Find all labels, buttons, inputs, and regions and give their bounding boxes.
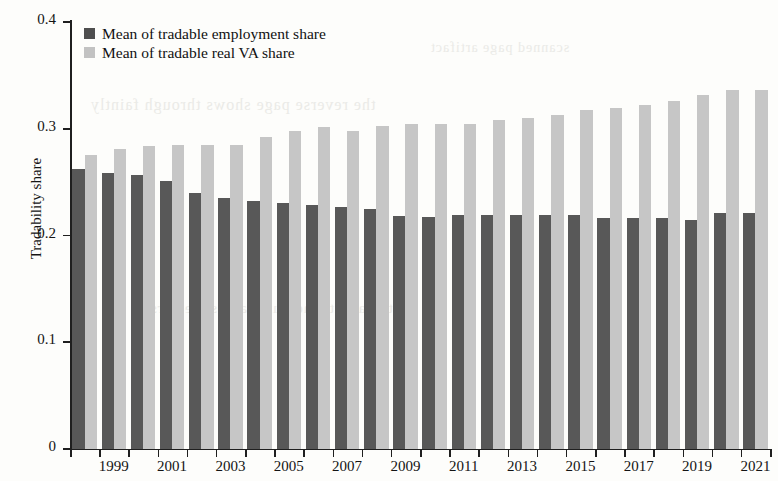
bar-real-va-share — [639, 105, 651, 449]
legend-item: Mean of tradable real VA share — [84, 43, 326, 62]
x-tick-label: 2005 — [274, 458, 304, 475]
bar-employment-share — [131, 175, 143, 449]
y-tick-label: 0.1 — [37, 331, 56, 348]
y-tick-label: 0.4 — [37, 11, 56, 28]
bar-employment-share — [510, 215, 522, 449]
legend-label: Mean of tradable employment share — [102, 24, 326, 43]
legend-item: Mean of tradable employment share — [84, 24, 326, 43]
x-tick-label: 2019 — [682, 458, 712, 475]
bar-real-va-share — [289, 131, 301, 449]
x-tick-mark — [624, 449, 626, 457]
x-tick-mark — [683, 449, 685, 457]
bar-employment-share — [568, 215, 580, 449]
bar-real-va-share — [143, 146, 155, 449]
bar-employment-share — [218, 198, 230, 449]
bar-real-va-share — [230, 145, 242, 449]
chart-legend: Mean of tradable employment shareMean of… — [84, 24, 326, 62]
legend-swatch-value_added — [84, 47, 95, 58]
bar-real-va-share — [405, 124, 417, 449]
bar-real-va-share — [464, 124, 476, 449]
bar-real-va-share — [580, 110, 592, 449]
x-tick-mark — [333, 449, 335, 457]
bar-employment-share — [539, 215, 551, 449]
x-tick-mark — [274, 449, 276, 457]
bar-real-va-share — [755, 90, 767, 449]
x-tick-mark — [653, 449, 655, 457]
bar-employment-share — [306, 205, 318, 449]
bar-real-va-share — [260, 137, 272, 449]
y-tick-label: 0.3 — [37, 118, 56, 135]
x-tick-mark — [566, 449, 568, 457]
bar-employment-share — [452, 215, 464, 449]
x-tick-mark — [770, 449, 772, 457]
bar-employment-share — [597, 218, 609, 449]
bar-employment-share — [364, 209, 376, 449]
bar-employment-share — [72, 169, 84, 449]
x-tick-label: 2001 — [157, 458, 187, 475]
bar-employment-share — [481, 215, 493, 449]
x-tick-label: 1999 — [99, 458, 129, 475]
x-tick-mark — [362, 449, 364, 457]
bar-real-va-share — [610, 108, 622, 449]
x-tick-mark — [478, 449, 480, 457]
y-tick-label: 0 — [49, 438, 57, 455]
bar-real-va-share — [201, 145, 213, 449]
x-tick-mark — [741, 449, 743, 457]
x-tick-mark — [158, 449, 160, 457]
x-tick-label: 2013 — [507, 458, 537, 475]
bar-employment-share — [102, 173, 114, 449]
bar-employment-share — [656, 218, 668, 449]
x-tick-label: 2007 — [332, 458, 362, 475]
bar-real-va-share — [668, 101, 680, 449]
bar-real-va-share — [114, 149, 126, 449]
x-tick-mark — [595, 449, 597, 457]
x-tick-mark — [70, 449, 72, 457]
bar-employment-share — [393, 216, 405, 449]
bar-real-va-share — [551, 115, 563, 449]
bar-real-va-share — [522, 118, 534, 449]
y-tick-label: 0.2 — [37, 225, 56, 242]
bar-employment-share — [743, 213, 755, 449]
x-tick-mark — [420, 449, 422, 457]
x-tick-mark — [187, 449, 189, 457]
bar-employment-share — [714, 213, 726, 449]
legend-label: Mean of tradable real VA share — [102, 43, 295, 62]
bar-employment-share — [277, 203, 289, 449]
x-tick-mark — [128, 449, 130, 457]
bar-real-va-share — [435, 124, 447, 449]
x-tick-mark — [303, 449, 305, 457]
bar-real-va-share — [172, 145, 184, 449]
x-tick-label: 2017 — [624, 458, 654, 475]
x-tick-label: 2021 — [740, 458, 770, 475]
x-tick-label: 2003 — [215, 458, 245, 475]
bar-real-va-share — [85, 155, 97, 449]
x-tick-mark — [216, 449, 218, 457]
x-tick-mark — [537, 449, 539, 457]
bar-real-va-share — [347, 131, 359, 449]
bar-employment-share — [685, 220, 697, 450]
x-tick-label: 2009 — [390, 458, 420, 475]
bar-real-va-share — [318, 127, 330, 449]
x-tick-mark — [391, 449, 393, 457]
bar-real-va-share — [376, 126, 388, 449]
x-tick-mark — [508, 449, 510, 457]
bar-real-va-share — [493, 120, 505, 449]
bar-employment-share — [247, 201, 259, 449]
plot-area — [70, 22, 770, 449]
bar-real-va-share — [726, 90, 738, 449]
bar-employment-share — [422, 217, 434, 449]
bar-employment-share — [627, 218, 639, 449]
bar-employment-share — [160, 181, 172, 449]
x-tick-mark — [99, 449, 101, 457]
bar-employment-share — [335, 207, 347, 449]
bar-real-va-share — [697, 95, 709, 449]
chart-figure: the reverse page shows through faintlytr… — [0, 0, 778, 481]
x-tick-mark — [245, 449, 247, 457]
x-tick-label: 2011 — [449, 458, 478, 475]
x-tick-mark — [712, 449, 714, 457]
x-tick-label: 2015 — [565, 458, 595, 475]
legend-swatch-employment — [84, 28, 95, 39]
bar-employment-share — [189, 193, 201, 449]
x-tick-mark — [449, 449, 451, 457]
